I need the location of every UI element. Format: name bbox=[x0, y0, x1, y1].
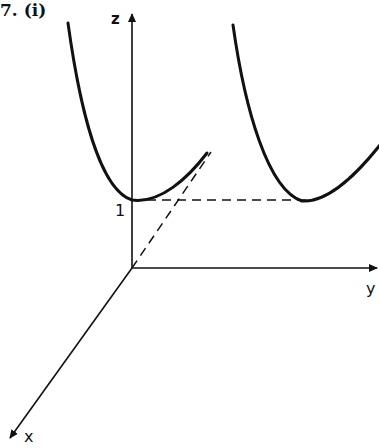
tick-label-one: 1 bbox=[115, 203, 125, 219]
dashed-diagonal-line bbox=[132, 152, 211, 268]
x-axis bbox=[10, 268, 132, 438]
figure-part: (i) bbox=[24, 0, 47, 20]
x-axis-label: x bbox=[24, 429, 33, 445]
y-axis-label: y bbox=[366, 281, 375, 297]
figure-number-label: 7. (i) bbox=[0, 2, 46, 19]
figure-number: 7. bbox=[0, 0, 18, 20]
right-parabola-curve bbox=[233, 25, 379, 201]
left-parabola-curve bbox=[68, 23, 207, 200]
diagram-canvas bbox=[0, 0, 379, 448]
z-axis-label: z bbox=[111, 12, 120, 27]
